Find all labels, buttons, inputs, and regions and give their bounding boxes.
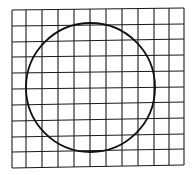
- grid-horizontal-line: [12, 8, 184, 10]
- grid-horizontal-line: [12, 165, 184, 168]
- grid-horizontal-line: [12, 55, 184, 57]
- grid-horizontal-line: [12, 71, 184, 73]
- square-grid: [12, 8, 184, 168]
- grid-circle-svg: [0, 0, 193, 175]
- grid-horizontal-line: [12, 134, 184, 137]
- grid-horizontal-line: [12, 39, 184, 42]
- grid-horizontal-line: [12, 102, 184, 105]
- grid-horizontal-line: [12, 87, 184, 89]
- grid-horizontal-line: [12, 118, 184, 121]
- grid-circle-figure: [0, 0, 193, 175]
